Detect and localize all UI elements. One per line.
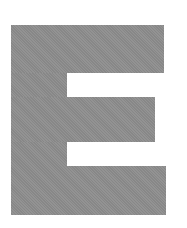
e-top-arm xyxy=(11,25,164,73)
letter-label: E xyxy=(0,0,1,1)
letter-e-glyph: E xyxy=(0,0,187,228)
e-middle-arm xyxy=(11,97,155,142)
e-bottom-arm xyxy=(11,166,166,215)
